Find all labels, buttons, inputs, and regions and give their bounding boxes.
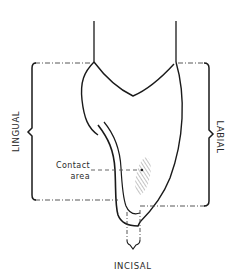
lingual-ridge-outer [98,125,140,226]
tooth-diagram [0,0,234,272]
contact-point [141,169,143,171]
contact-area-hatch [132,156,154,196]
contact-label-line2: area [52,171,90,182]
lingual-outline [82,62,99,135]
lingual-label: LINGUAL [11,114,21,152]
cervical-line [94,62,174,96]
contact-area-label: Contact area [52,160,90,182]
contact-label-line1: Contact [52,160,90,171]
labial-outline [140,62,182,222]
incisal-brace [127,240,140,249]
labial-brace [204,63,213,206]
incisal-label: INCISAL [114,261,152,271]
lingual-brace [28,63,36,200]
labial-label: LABIAL [215,119,225,155]
